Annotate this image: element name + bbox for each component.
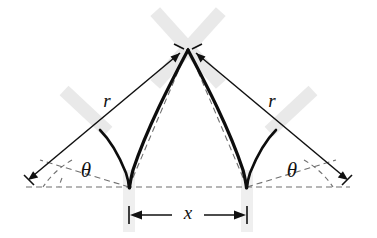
arch-diagram-figure: Pointed (gothic) arch geometry diagram T… xyxy=(0,0,377,238)
span-label: x xyxy=(183,202,193,223)
radius-arrow-group xyxy=(24,44,352,185)
radius-line-right xyxy=(196,53,342,175)
angle-label-left: θ xyxy=(81,158,91,182)
angle-arc-left xyxy=(59,178,62,187)
angle-label-right: θ xyxy=(287,158,297,182)
grey-band-group xyxy=(60,7,318,232)
radius-label-left: r xyxy=(103,90,111,111)
radius-line-left xyxy=(34,53,180,175)
arch-diagram-svg: Pointed (gothic) arch geometry diagram T… xyxy=(0,0,377,238)
arch-curve-group xyxy=(100,50,276,188)
radius-label-right: r xyxy=(268,90,276,111)
dashed-construction-group xyxy=(26,48,350,187)
